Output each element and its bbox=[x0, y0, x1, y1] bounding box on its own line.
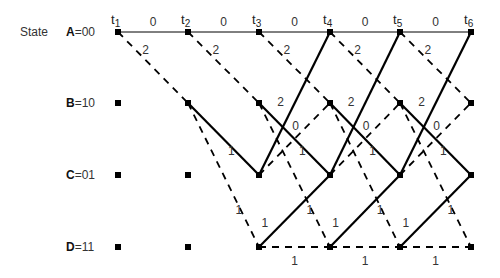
state-node bbox=[468, 29, 474, 35]
time-label: t1 bbox=[111, 12, 121, 29]
state-label-d: D=11 bbox=[66, 240, 94, 254]
edge-metric-label: 1 bbox=[291, 254, 298, 268]
edge-a-to-b bbox=[259, 32, 330, 103]
state-node bbox=[256, 100, 262, 106]
edge-metric-label: 1 bbox=[432, 254, 439, 268]
edge-metric-label: 1 bbox=[369, 144, 376, 158]
state-node bbox=[185, 172, 191, 178]
time-label: t3 bbox=[252, 12, 262, 29]
time-label: t4 bbox=[323, 12, 333, 29]
state-node bbox=[256, 172, 262, 178]
time-label: t6 bbox=[464, 12, 474, 29]
state-labels: State A=00B=10C=01D=11 bbox=[20, 25, 95, 254]
edge-metric-label: 0 bbox=[220, 15, 227, 29]
state-node bbox=[115, 100, 121, 106]
state-node bbox=[397, 172, 403, 178]
state-node bbox=[256, 29, 262, 35]
edge-c-to-a bbox=[330, 32, 400, 175]
edge-metric-label: 1 bbox=[235, 203, 242, 217]
edge-a-to-b bbox=[330, 32, 400, 103]
edge-metric-label: 0 bbox=[150, 15, 157, 29]
edge-b-to-d bbox=[188, 103, 259, 247]
edge-metric-label: 1 bbox=[377, 203, 384, 217]
edge-metric-label: 2 bbox=[424, 43, 431, 57]
edge-metric-label: 2 bbox=[418, 95, 425, 109]
edge-metric-label: 2 bbox=[212, 43, 219, 57]
state-node bbox=[256, 244, 262, 250]
trellis-edges bbox=[118, 32, 471, 247]
edge-metric-label: 0 bbox=[292, 119, 299, 133]
state-node bbox=[468, 100, 474, 106]
edge-a-to-b bbox=[188, 32, 259, 103]
edge-b-to-c bbox=[188, 103, 259, 175]
edge-metric-label: 2 bbox=[354, 43, 361, 57]
state-node bbox=[327, 29, 333, 35]
edge-a-to-b bbox=[400, 32, 471, 103]
edge-metric-label: 1 bbox=[228, 144, 235, 158]
state-node bbox=[115, 244, 121, 250]
edge-metric-label: 0 bbox=[432, 15, 439, 29]
state-node bbox=[327, 172, 333, 178]
edge-metric-label: 1 bbox=[299, 144, 306, 158]
state-node bbox=[397, 244, 403, 250]
edge-metric-label: 1 bbox=[403, 216, 410, 230]
edge-d-to-c bbox=[259, 175, 330, 247]
edge-metric-label: 1 bbox=[362, 254, 369, 268]
state-node bbox=[115, 29, 121, 35]
state-node bbox=[115, 172, 121, 178]
state-node bbox=[397, 29, 403, 35]
state-node bbox=[327, 244, 333, 250]
state-node bbox=[185, 100, 191, 106]
edge-metric-label: 0 bbox=[362, 15, 369, 29]
edge-c-to-a bbox=[400, 32, 471, 175]
edge-metric-label: 2 bbox=[283, 43, 290, 57]
state-node bbox=[468, 172, 474, 178]
state-node bbox=[185, 244, 191, 250]
edge-c-to-a bbox=[259, 32, 330, 175]
state-label-c: C=01 bbox=[66, 168, 95, 182]
edge-metric-label: 1 bbox=[447, 203, 454, 217]
edge-metric-label: 1 bbox=[262, 216, 269, 230]
edge-metric-label: 1 bbox=[440, 144, 447, 158]
edge-metric-label: 2 bbox=[142, 43, 149, 57]
state-node bbox=[468, 244, 474, 250]
state-node bbox=[185, 29, 191, 35]
time-label: t2 bbox=[181, 12, 191, 29]
edge-metric-label: 0 bbox=[291, 15, 298, 29]
edge-metric-label: 0 bbox=[363, 119, 370, 133]
state-node bbox=[397, 100, 403, 106]
edge-metric-label: 0 bbox=[433, 119, 440, 133]
state-label-a: A=00 bbox=[66, 25, 95, 39]
edge-metric-label: 2 bbox=[277, 95, 284, 109]
state-label-b: B=10 bbox=[66, 96, 95, 110]
edge-metric-label: 1 bbox=[332, 216, 339, 230]
edge-a-to-b bbox=[118, 32, 188, 103]
edge-d-to-c bbox=[330, 175, 400, 247]
time-label: t5 bbox=[393, 12, 403, 29]
state-node bbox=[327, 100, 333, 106]
trellis-diagram: 020211021120110211201102112011 t1t2t3t4t… bbox=[0, 0, 500, 278]
edge-metric-label: 1 bbox=[306, 203, 313, 217]
edge-d-to-c bbox=[400, 175, 471, 247]
edge-metric-label: 2 bbox=[348, 95, 355, 109]
state-header-label: State bbox=[20, 25, 48, 39]
